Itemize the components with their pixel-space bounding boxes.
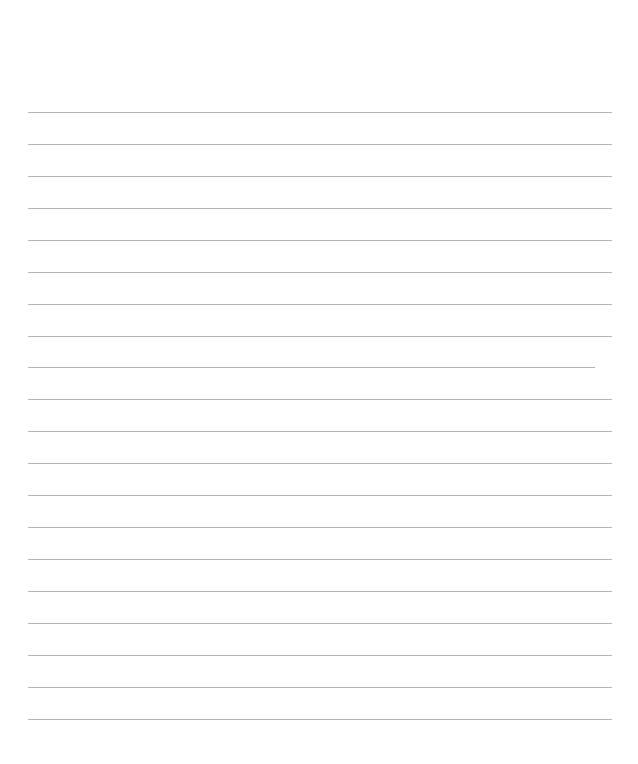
ruled-line [28, 176, 612, 177]
ruled-line [28, 431, 612, 432]
ruled-line [28, 112, 612, 113]
ruled-line [28, 495, 612, 496]
lined-paper-page [0, 0, 638, 764]
ruled-line [28, 559, 612, 560]
ruled-line [28, 719, 612, 720]
ruled-line [28, 623, 612, 624]
ruled-line [28, 304, 612, 305]
ruled-line [28, 240, 612, 241]
ruled-line [28, 527, 612, 528]
ruled-line [28, 399, 612, 400]
ruled-line [28, 687, 612, 688]
ruled-line [28, 655, 612, 656]
ruled-line [28, 463, 612, 464]
ruled-line [28, 272, 612, 273]
ruled-line [28, 367, 595, 368]
ruled-line [28, 144, 612, 145]
ruled-line [28, 336, 612, 337]
ruled-line [28, 591, 612, 592]
ruled-line [28, 208, 612, 209]
